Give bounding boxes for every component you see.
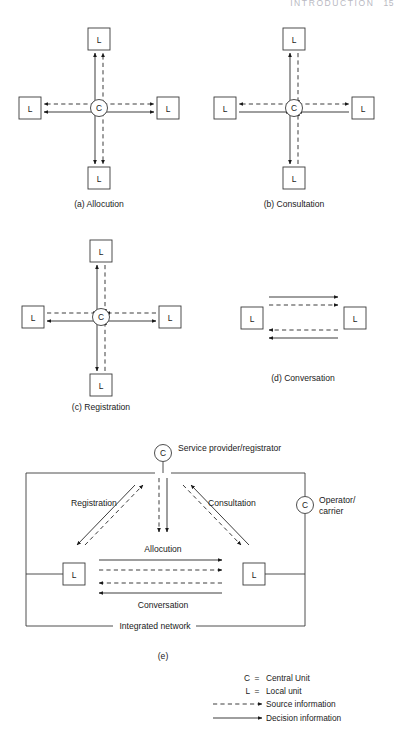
panel-c-node-top-label: L — [99, 247, 104, 257]
panel-c-node-right-label: L — [168, 313, 173, 323]
legend-text-0: Central Unit — [266, 673, 311, 683]
panel-c-node-bottom-label: L — [99, 381, 104, 391]
panel-b-central-unit-label: C — [291, 103, 297, 113]
panel-c-registration: L L L L C (c) Registration — [22, 240, 181, 412]
panel-e-service-provider-caption: Service provider/registrator — [178, 443, 281, 453]
panel-a-node-top-label: L — [97, 35, 102, 45]
panel-e-node-right-label: L — [252, 570, 257, 580]
legend-eq-1: = — [255, 686, 260, 696]
panel-e-node-left-label: L — [72, 570, 77, 580]
legend-eq-0: = — [255, 673, 260, 683]
panel-a-caption: (a) Allocution — [74, 199, 124, 209]
legend-text-2: Source information — [266, 699, 336, 709]
panel-d-node-right-label: L — [353, 314, 358, 324]
panel-e-network-label: Integrated network — [119, 621, 191, 631]
panel-e-operator-label: C — [302, 500, 308, 510]
panel-d-conversation: L L (d) Conversation — [241, 297, 366, 383]
panel-e-consultation-arrow-solid — [191, 485, 249, 545]
panel-e-conversation-label: Conversation — [138, 600, 189, 610]
legend-key-1: L — [245, 686, 250, 696]
panel-a-central-unit-label: C — [96, 103, 102, 113]
figure-legend: C = Central Unit L = Local unit Source i… — [213, 673, 342, 723]
panel-d-caption: (d) Conversation — [271, 373, 335, 383]
legend-text-1: Local unit — [266, 686, 302, 696]
panel-e-registration-arrow-dashed — [85, 485, 143, 545]
panel-d-node-left-label: L — [250, 314, 255, 324]
panel-a-allocution: L L L L C (a) Allocution — [19, 28, 179, 209]
panel-c-caption: (c) Registration — [72, 402, 130, 412]
panel-e-service-provider-label: C — [160, 448, 166, 458]
panel-e-consultation-arrow-dashed — [183, 485, 241, 545]
panel-e-operator-caption-line1: Operator/ — [319, 495, 356, 505]
panel-e-registration-label: Registration — [71, 498, 117, 508]
panel-b-caption: (b) Consultation — [264, 199, 325, 209]
legend-key-0: C — [244, 673, 250, 683]
panel-e-allocution-label: Allocution — [144, 544, 181, 554]
panel-b-node-left-label: L — [223, 104, 228, 114]
panel-b-node-bottom-label: L — [292, 174, 297, 184]
panel-e-integrated: C Service provider/registrator C Operato… — [26, 443, 356, 661]
figure-page: INTRODUCTION15 L L L L — [0, 0, 406, 738]
panel-c-central-unit-label: C — [98, 312, 104, 322]
panel-a-node-right-label: L — [166, 104, 171, 114]
panel-b-node-right-label: L — [361, 104, 366, 114]
panel-e-operator-caption-line2: carrier — [319, 506, 343, 516]
panel-e-consultation-label: Consultation — [208, 498, 256, 508]
panel-a-node-bottom-label: L — [97, 174, 102, 184]
panel-a-node-left-label: L — [28, 104, 33, 114]
panel-b-node-top-label: L — [292, 35, 297, 45]
figure-canvas: L L L L C (a) Allocution L — [0, 0, 406, 738]
panel-b-consultation: L L L L C (b) Consultation — [214, 28, 374, 209]
panel-e-caption: (e) — [158, 651, 169, 661]
legend-text-3: Decision information — [266, 713, 342, 723]
panel-e-registration-arrow-solid — [77, 485, 135, 545]
panel-c-node-left-label: L — [31, 313, 36, 323]
